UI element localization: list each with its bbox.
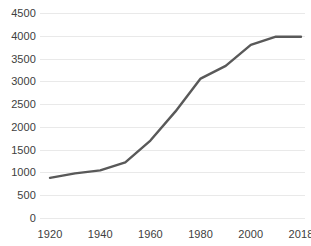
x-tick-label: 2000 [238,228,263,240]
x-tick-label: 2018 [289,228,311,240]
x-tick-label: 1960 [138,228,163,240]
x-tick-label: 1940 [88,228,113,240]
x-tick-label: 1980 [188,228,213,240]
x-tick-label: 1920 [38,228,63,240]
line-chart: 050010001500200025003000350040004500 192… [0,0,311,246]
x-axis: 192019401960198020002018 [0,0,311,246]
